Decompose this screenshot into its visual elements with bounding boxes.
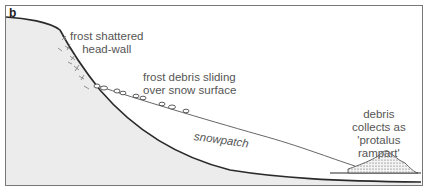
label-debris-sliding-line2: over snow surface — [143, 84, 236, 97]
label-rampart-line2: collects as — [352, 121, 406, 134]
label-rampart: debris collects as 'protalus rampart' — [352, 108, 406, 160]
label-debris-sliding: frost debris sliding over snow surface — [143, 71, 236, 97]
label-headwall-line1: frost shattered — [70, 30, 144, 43]
panel-letter: b — [9, 6, 16, 20]
label-rampart-line3: 'protalus — [352, 134, 406, 147]
label-headwall: frost shattered head-wall — [70, 30, 144, 56]
label-rampart-line4: rampart' — [352, 147, 406, 160]
label-debris-sliding-line1: frost debris sliding — [143, 71, 236, 84]
label-rampart-line1: debris — [352, 108, 406, 121]
label-headwall-line2: head-wall — [70, 43, 144, 56]
